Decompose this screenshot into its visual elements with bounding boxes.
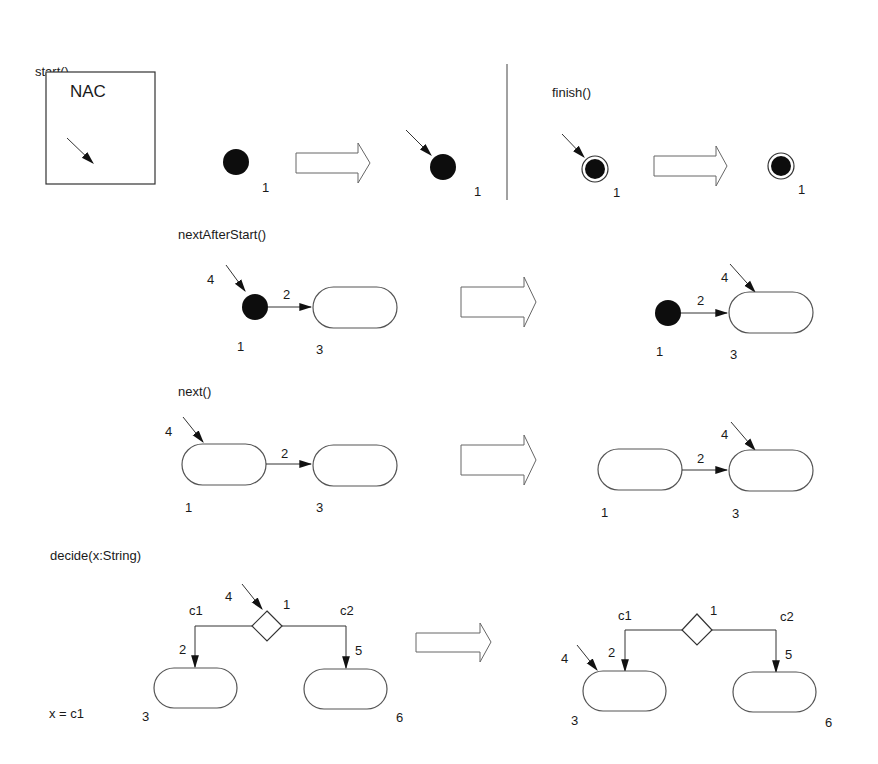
rhs-initial-node: 1 xyxy=(406,130,481,199)
guard-label: c1 xyxy=(189,603,203,618)
action-node xyxy=(729,450,813,491)
initial-node-icon xyxy=(242,294,268,320)
node-id-label: 3 xyxy=(142,709,149,724)
node-id-label: 6 xyxy=(825,715,832,730)
action-node xyxy=(598,449,682,490)
node-id-label: 1 xyxy=(283,597,290,612)
node-id-label: 3 xyxy=(316,500,323,515)
rhs: 4 2 1 3 xyxy=(598,422,813,521)
pointer-arrow-icon xyxy=(731,422,755,450)
edge-id-label: 5 xyxy=(355,643,362,658)
node-id-label: 1 xyxy=(656,344,663,359)
pointer-arrow-icon xyxy=(406,130,431,155)
edge-id-label: 2 xyxy=(697,451,704,466)
edge-arrow xyxy=(282,626,346,668)
node-id-label: 1 xyxy=(710,603,717,618)
pointer-id-label: 4 xyxy=(721,427,728,442)
pointer-arrow-icon xyxy=(562,134,584,157)
edge-arrow xyxy=(625,630,682,671)
pointer-id-label: 4 xyxy=(721,270,728,285)
rule-decide: decide(x:String) x = c1 4 1 c1 c2 2 5 3 … xyxy=(49,548,832,730)
guard-label: c2 xyxy=(780,609,794,624)
nac-label: NAC xyxy=(70,82,106,101)
pointer-arrow-icon xyxy=(242,584,262,609)
action-node xyxy=(583,671,666,711)
initial-node-icon xyxy=(430,154,456,180)
edge-id-label: 2 xyxy=(179,642,186,657)
rule-next-after-start: nextAfterStart() 4 2 1 3 4 2 1 3 xyxy=(178,227,813,362)
rule-next: next() 4 2 1 3 4 2 1 3 xyxy=(165,384,813,521)
rule-finish: finish() 1 1 xyxy=(552,85,805,200)
edge-id-label: 2 xyxy=(283,287,290,302)
decision-node-icon xyxy=(252,611,282,641)
transform-arrow-icon xyxy=(416,623,491,662)
rhs-final-node: 1 xyxy=(768,153,805,197)
node-id-label: 1 xyxy=(798,182,805,197)
rule-title-next: next() xyxy=(178,384,211,399)
guard-label: c1 xyxy=(618,608,632,623)
pointer-arrow-icon xyxy=(226,265,245,291)
pointer-id-label: 4 xyxy=(225,589,232,604)
rule-title-finish: finish() xyxy=(552,85,591,100)
action-node xyxy=(304,669,387,709)
action-node xyxy=(154,668,237,708)
graph-transformation-rules-diagram: start() NAC 1 1 finish() 1 xyxy=(0,0,878,764)
decision-node-icon xyxy=(682,614,712,645)
node-id-label: 1 xyxy=(185,500,192,515)
pointer-id-label: 4 xyxy=(561,651,568,666)
rule-title-next-after-start: nextAfterStart() xyxy=(178,227,266,242)
node-id-label: 3 xyxy=(730,347,737,362)
transform-arrow-icon xyxy=(461,277,536,327)
transform-arrow-icon xyxy=(654,146,727,186)
pointer-arrow-icon xyxy=(183,417,203,442)
pointer-arrow-icon xyxy=(730,264,755,292)
node-id-label: 1 xyxy=(262,180,269,195)
action-node xyxy=(729,292,813,333)
transform-arrow-icon xyxy=(461,435,536,485)
node-id-label: 1 xyxy=(601,505,608,520)
pointer-id-label: 4 xyxy=(207,272,214,287)
action-node xyxy=(733,672,816,712)
condition-label: x = c1 xyxy=(49,706,84,721)
edge-id-label: 2 xyxy=(281,446,288,461)
action-node xyxy=(313,287,397,328)
action-node xyxy=(313,445,397,486)
pointer-id-label: 4 xyxy=(165,424,172,439)
node-id-label: 6 xyxy=(396,710,403,725)
rule-start: start() NAC 1 1 xyxy=(35,64,481,199)
edge-arrow xyxy=(195,626,252,667)
lhs-final-node: 1 xyxy=(562,134,620,200)
pointer-arrow-icon xyxy=(577,645,597,670)
edge-id-label: 2 xyxy=(697,293,704,308)
initial-node-icon xyxy=(223,149,249,175)
lhs-initial-node: 1 xyxy=(223,149,269,195)
guard-label: c2 xyxy=(340,603,354,618)
node-id-label: 3 xyxy=(732,506,739,521)
lhs: 4 2 1 3 xyxy=(207,265,397,357)
node-id-label: 3 xyxy=(571,713,578,728)
edge-id-label: 5 xyxy=(785,647,792,662)
initial-node-icon xyxy=(655,300,681,326)
edge-id-label: 2 xyxy=(608,645,615,660)
edge-arrow xyxy=(712,630,776,672)
node-id-label: 1 xyxy=(613,185,620,200)
action-node xyxy=(182,444,266,485)
rule-title-decide: decide(x:String) xyxy=(50,548,141,563)
node-id-label: 3 xyxy=(316,342,323,357)
nac-box: NAC xyxy=(46,72,155,184)
rhs: 4 2 1 3 xyxy=(655,264,813,362)
node-id-label: 1 xyxy=(474,184,481,199)
lhs: 4 2 1 3 xyxy=(165,417,397,515)
node-id-label: 1 xyxy=(237,339,244,354)
transform-arrow-icon xyxy=(296,143,370,183)
lhs: 4 1 c1 c2 2 5 3 6 xyxy=(142,584,403,725)
rhs: 1 c1 c2 2 5 4 3 6 xyxy=(561,603,832,730)
